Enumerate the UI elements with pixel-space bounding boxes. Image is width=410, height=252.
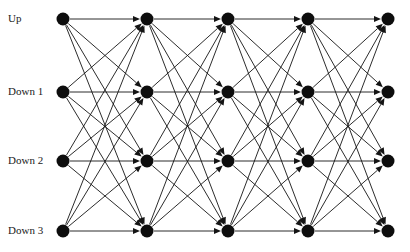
trellis-edge [152,166,217,222]
edge-arrowhead [133,158,140,164]
trellis-edge [311,31,381,155]
trellis-edge [231,104,301,225]
trellis-edge [233,24,297,83]
trellis-node [57,13,70,26]
trellis-edge [151,98,221,219]
edge-arrowhead [374,16,381,22]
trellis-node [382,86,395,99]
trellis-edge [152,170,217,226]
trellis-edge [310,32,383,224]
trellis-node [222,155,235,168]
trellis-edge [313,166,377,222]
edge-arrowhead [374,228,381,234]
trellis-node [57,225,70,238]
trellis-edge [68,96,136,152]
trellis-edge [313,101,377,156]
trellis-edge [311,104,381,225]
trellis-node [302,86,315,99]
trellis-edge [152,101,217,156]
edge-arrowhead [214,16,221,22]
trellis-canvas: UpDown 1Down 2Down 3 [0,0,410,252]
edge-arrowhead [374,158,381,164]
edge-arrowhead [133,89,140,95]
edge-arrowhead [214,89,221,95]
edge-arrowhead [294,158,301,164]
trellis-edge [231,31,301,155]
trellis-edge [231,98,301,219]
row-label-up: Up [8,12,22,24]
trellis-node [302,155,315,168]
trellis-edge [152,24,217,83]
trellis-edge [66,32,142,224]
edge-arrowhead [294,16,301,22]
edge-arrowhead [133,16,140,22]
edge-arrowhead [294,89,301,95]
trellis-node [57,86,70,99]
trellis-node [141,155,154,168]
trellis-node [382,13,395,26]
trellis-edge [230,32,303,224]
trellis-edge [233,170,297,226]
row-label-down-1: Down 1 [8,85,43,97]
trellis-edge [150,32,224,224]
trellis-node [141,225,154,238]
trellis-node [302,225,315,238]
trellis-edge [68,101,136,157]
edges-layer [66,16,386,234]
trellis-node [222,13,235,26]
trellis-edge [68,24,136,83]
edge-arrowhead [214,158,221,164]
trellis-node [222,86,235,99]
trellis-edge [233,101,297,156]
trellis-edge [150,31,221,155]
row-labels-layer: UpDown 1Down 2Down 3 [8,12,44,236]
trellis-node [302,13,315,26]
trellis-edge [68,170,136,227]
edge-arrowhead [134,165,141,172]
trellis-edge [311,98,381,219]
trellis-edge [67,31,140,155]
trellis-node [222,225,235,238]
trellis-edge [233,166,297,222]
row-label-down-2: Down 2 [8,154,43,166]
trellis-node [382,155,395,168]
edge-arrowhead [374,89,381,95]
trellis-diagram-figure: UpDown 1Down 2Down 3 [0,0,410,252]
trellis-node [141,86,154,99]
trellis-node [141,13,154,26]
trellis-edge [67,98,140,219]
row-label-down-3: Down 3 [8,224,44,236]
trellis-node [57,155,70,168]
trellis-node [382,225,395,238]
edge-arrowhead [214,228,221,234]
trellis-edge [151,104,221,225]
trellis-edge [152,97,217,152]
trellis-edge [67,104,140,225]
edge-arrowhead [294,228,301,234]
trellis-edge [68,165,136,222]
trellis-edge [313,24,377,83]
trellis-edge [313,170,377,226]
edge-arrowhead [133,228,140,234]
